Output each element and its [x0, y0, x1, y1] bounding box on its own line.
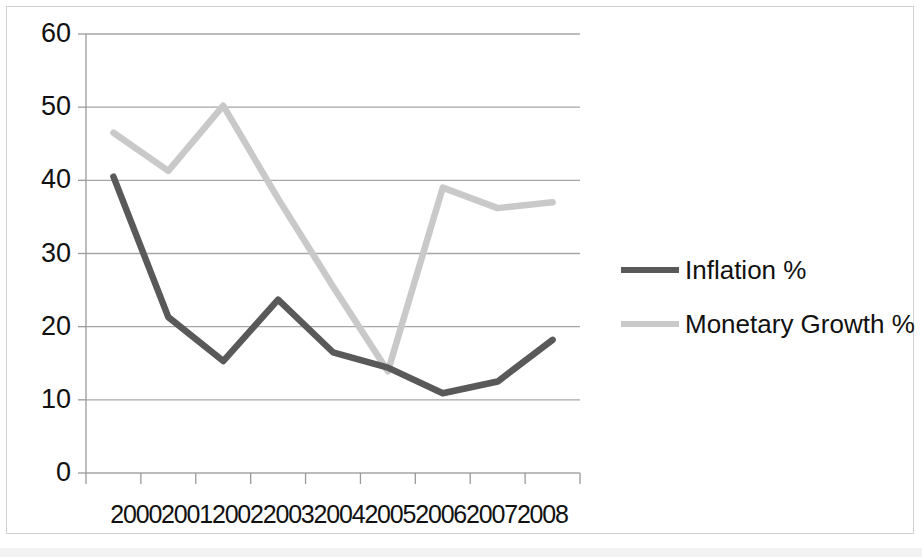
y-axis-label-20: 20 [7, 313, 71, 340]
chart-screenshot: 0102030405060 20002001200220032004200520… [0, 0, 922, 557]
y-axis-label-50: 50 [7, 93, 71, 120]
bottom-strip [0, 548, 922, 557]
legend-label-monetary-growth: Monetary Growth % [685, 311, 915, 337]
x-axis-label-2005: 2005 [364, 502, 415, 527]
x-axis-label-2008: 2008 [517, 502, 568, 527]
x-tick-marks-group [86, 473, 580, 484]
x-axis-label-2000: 2000 [110, 502, 161, 527]
chart-legend: Inflation % Monetary Growth % [621, 243, 921, 351]
legend-swatch-inflation [621, 267, 679, 273]
x-axis-label-2006: 2006 [415, 502, 466, 527]
y-axis-label-40: 40 [7, 166, 71, 193]
legend-item-inflation: Inflation % [621, 243, 921, 297]
legend-item-monetary-growth: Monetary Growth % [621, 297, 921, 351]
x-axis-label-2001: 2001 [161, 502, 212, 527]
y-axis-label-0: 0 [7, 459, 71, 486]
x-axis-label-2004: 2004 [314, 502, 365, 527]
y-axis-label-60: 60 [7, 20, 71, 47]
chart-frame: 0102030405060 20002001200220032004200520… [6, 6, 914, 534]
series-lines-group [113, 106, 552, 394]
legend-label-inflation: Inflation % [685, 257, 806, 283]
x-axis-label-2003: 2003 [263, 502, 314, 527]
x-axis-tick-labels: 200020012002200320042005200620072008 [92, 502, 586, 527]
gridlines-group [86, 34, 580, 473]
legend-swatch-monetary-growth [621, 321, 679, 327]
axis-lines-group [78, 34, 86, 473]
y-axis-label-10: 10 [7, 386, 71, 413]
x-axis-label-2002: 2002 [212, 502, 263, 527]
y-axis-label-30: 30 [7, 240, 71, 267]
x-axis-label-2007: 2007 [466, 502, 517, 527]
series-line-monetary-growth [113, 106, 552, 372]
